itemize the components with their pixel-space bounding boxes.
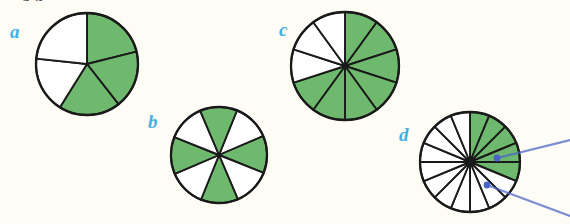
- figure-label-c: c: [279, 20, 287, 39]
- pie-d: [420, 112, 520, 212]
- figure-label-a: a: [10, 22, 20, 41]
- figure-label-d: d: [399, 125, 409, 144]
- pointer-lower-dot: [484, 182, 491, 189]
- figure-canvas: a.4 a b c d: [0, 0, 570, 224]
- cut-off-heading: a.4: [22, 0, 44, 1]
- pie-a: [36, 13, 138, 115]
- pointer-upper-dot: [494, 155, 501, 162]
- pie-b: [171, 107, 267, 203]
- figure-label-b: b: [148, 112, 158, 131]
- pie-c: [291, 12, 399, 120]
- pie-c-center-dot: [342, 63, 348, 69]
- pie-d-center-dot: [466, 158, 474, 166]
